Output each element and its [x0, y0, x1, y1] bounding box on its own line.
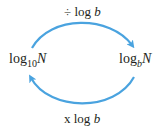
multiply-log-b-label: x log b — [64, 112, 100, 125]
logb-n-node: logbN — [119, 52, 151, 66]
log-text: log — [74, 111, 91, 126]
multiply-operator: x — [64, 111, 71, 126]
log10-n-node: log10N — [9, 52, 46, 66]
top-arrow — [32, 23, 132, 48]
log-text: log — [9, 51, 27, 66]
log-text: log — [74, 4, 91, 19]
log-text: log — [119, 51, 137, 66]
base-subscript: 10 — [27, 58, 37, 69]
base-subscript: b — [137, 58, 142, 69]
variable-b: b — [94, 4, 101, 19]
variable-n: N — [142, 51, 151, 66]
variable-b: b — [94, 111, 101, 126]
bottom-arrow — [31, 77, 134, 103]
divide-log-b-label: ÷ log b — [64, 5, 101, 18]
variable-n: N — [37, 51, 46, 66]
divide-operator: ÷ — [64, 4, 71, 19]
